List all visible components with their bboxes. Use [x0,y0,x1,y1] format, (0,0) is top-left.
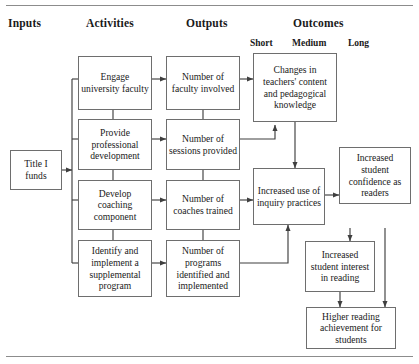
node-num-coaches-label: Number of coaches trained [169,193,237,216]
node-develop-coaching[interactable]: Develop coaching component [78,180,152,230]
node-title-i-funds[interactable]: Title I funds [10,150,62,190]
node-teacher-knowledge[interactable]: Changes in teachers' content and pedagog… [253,53,337,122]
node-num-faculty-label: Number of faculty involved [169,71,237,94]
wire-num-sessions-to-teacher-knowledge [240,125,275,139]
node-inquiry-practices[interactable]: Increased use of inquiry practices [253,168,325,225]
node-reading-achievement[interactable]: Higher reading achievement for students [306,307,396,349]
node-num-sessions-label: Number of sessions provided [169,133,237,156]
node-teacher-knowledge-label: Changes in teachers' content and pedagog… [256,64,334,110]
node-num-programs[interactable]: Number of programs identified and implem… [166,240,240,297]
node-provide-pd-label: Provide professional development [81,127,149,162]
node-reading-achievement-label: Higher reading achievement for students [309,311,393,346]
wire-num-programs-to-inquiry [240,225,288,263]
node-identify-program[interactable]: Identify and implement a supplemental pr… [78,240,152,297]
node-engage-faculty[interactable]: Engage university faculty [78,56,152,110]
node-provide-pd[interactable]: Provide professional development [78,119,152,170]
node-identify-program-label: Identify and implement a supplemental pr… [81,245,149,291]
node-student-interest[interactable]: Increased student interest in reading [305,241,375,292]
node-student-interest-label: Increased student interest in reading [308,249,372,284]
node-num-faculty[interactable]: Number of faculty involved [166,56,240,110]
node-inquiry-practices-label: Increased use of inquiry practices [256,185,322,208]
node-num-sessions[interactable]: Number of sessions provided [166,119,240,170]
node-num-programs-label: Number of programs identified and implem… [169,245,237,291]
node-student-confidence[interactable]: Increased student confidence as readers [339,147,411,204]
node-student-confidence-label: Increased student confidence as readers [342,152,408,198]
logic-model-diagram: Inputs Activities Outputs Outcomes Short… [0,0,419,364]
node-develop-coaching-label: Develop coaching component [81,188,149,223]
node-num-coaches[interactable]: Number of coaches trained [166,180,240,230]
node-engage-faculty-label: Engage university faculty [81,71,149,94]
node-title-i-funds-label: Title I funds [13,158,59,181]
